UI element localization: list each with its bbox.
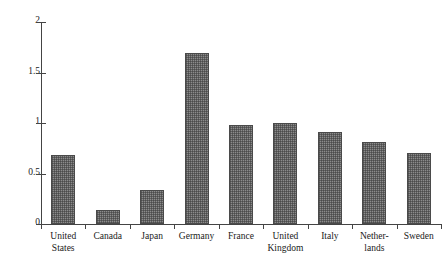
y-tick-label: 2 [35, 15, 40, 25]
x-tick-label: Sweden [397, 231, 441, 243]
bar-slot [397, 22, 441, 224]
plot-area [41, 22, 441, 224]
bar-slot [85, 22, 129, 224]
bar-slot [219, 22, 263, 224]
bar[interactable] [96, 210, 120, 224]
bar[interactable] [318, 132, 342, 224]
x-tick-mark [263, 224, 264, 229]
x-axis-labels: United StatesCanadaJapanGermanyFranceUni… [41, 231, 441, 269]
x-axis-line [41, 224, 441, 225]
bar-slot [41, 22, 85, 224]
bar[interactable] [185, 53, 209, 224]
x-tick-mark [308, 224, 309, 229]
x-tick-mark [174, 224, 175, 229]
bar-slot [174, 22, 218, 224]
x-tick-mark [397, 224, 398, 229]
x-tick-mark [85, 224, 86, 229]
bar[interactable] [362, 142, 386, 224]
y-tick-label: 1 [35, 116, 40, 126]
y-tick-label: 0 [35, 217, 40, 227]
bar-chart: 00.511.52 United StatesCanadaJapanGerman… [0, 0, 448, 271]
x-tick-mark [352, 224, 353, 229]
bar-slot [352, 22, 396, 224]
bar-slot [130, 22, 174, 224]
x-tick-label: United States [41, 231, 85, 254]
x-tick-label: Italy [308, 231, 352, 243]
y-tick-label: 1.5 [28, 66, 40, 76]
bar[interactable] [273, 123, 297, 224]
bar-slot [308, 22, 352, 224]
bar-slot [263, 22, 307, 224]
x-tick-label: Nether- lands [352, 231, 396, 254]
bar[interactable] [407, 153, 431, 224]
x-tick-mark [219, 224, 220, 229]
x-tick-label: United Kingdom [263, 231, 307, 254]
bar[interactable] [51, 155, 75, 224]
x-tick-label: France [219, 231, 263, 243]
x-tick-mark [41, 224, 42, 229]
bar[interactable] [229, 125, 253, 224]
x-tick-label: Germany [174, 231, 218, 243]
bar[interactable] [140, 190, 164, 224]
x-tick-mark [130, 224, 131, 229]
x-tick-label: Canada [85, 231, 129, 243]
x-tick-label: Japan [130, 231, 174, 243]
x-tick-mark [441, 224, 442, 229]
y-tick-label: 0.5 [28, 167, 40, 177]
